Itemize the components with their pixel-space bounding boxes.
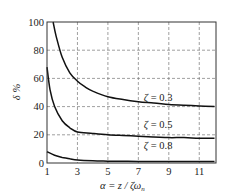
curve-label: ζ = 0.3 <box>144 92 173 104</box>
curve-label: ζ = 0.8 <box>144 140 173 152</box>
curve-label: ζ = 0.5 <box>144 119 173 131</box>
x-tick-label: 5 <box>105 166 110 177</box>
y-tick-label: 80 <box>34 45 45 56</box>
x-axis-label-sub: n <box>141 185 145 193</box>
curve-labels: ζ = 0.3ζ = 0.5ζ = 0.8 <box>144 92 173 152</box>
x-axis-label-rest: = z / ζω <box>106 180 142 192</box>
x-tick-labels: 1357911 <box>44 166 204 177</box>
curve-zeta-08 <box>47 152 215 162</box>
x-tick-label: 1 <box>44 166 49 177</box>
x-axis-label: α = z / ζωn <box>100 180 145 193</box>
y-tick-label: 0 <box>39 158 44 169</box>
x-tick-label: 9 <box>166 166 171 177</box>
x-tick-label: 11 <box>194 166 204 177</box>
chart: 020406080100 1357911 ζ = 0.3ζ = 0.5ζ = 0… <box>0 0 226 195</box>
curve-zeta-05 <box>47 67 215 138</box>
y-tick-label: 20 <box>34 129 45 140</box>
y-tick-label: 100 <box>28 17 44 28</box>
plot-frame <box>47 22 216 163</box>
y-tick-labels: 020406080100 <box>28 17 44 169</box>
y-tick-label: 60 <box>34 73 45 84</box>
x-tick-label: 3 <box>75 166 80 177</box>
y-tick-label: 40 <box>34 101 45 112</box>
grid-lines <box>47 22 216 163</box>
y-axis-label: δ % <box>11 84 22 101</box>
curves <box>47 22 215 162</box>
x-tick-label: 7 <box>136 166 141 177</box>
